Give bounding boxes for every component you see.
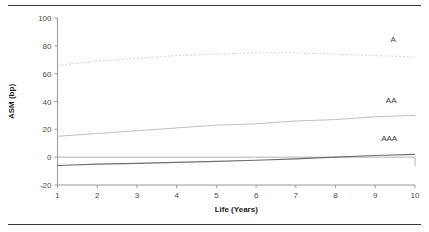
line-chart: -2002040608010012345678910ASM (bp)Life (… (0, 0, 429, 232)
x-tick-label: 3 (135, 191, 140, 200)
y-tick-label: 100 (38, 14, 52, 23)
y-tick-label: 80 (43, 42, 52, 51)
y-axis-title: ASM (bp) (7, 84, 16, 119)
series-label-a: A (390, 35, 396, 44)
series-line-aa (58, 115, 416, 136)
x-tick-label: 5 (214, 191, 219, 200)
x-tick-label: 4 (174, 191, 179, 200)
chart-plot-area: -2002040608010012345678910ASM (bp)Life (… (0, 0, 429, 232)
series-label-aa: AA (386, 96, 397, 105)
x-tick-label: 6 (254, 191, 259, 200)
series-line-a (58, 53, 416, 66)
y-tick-label: -20 (40, 181, 52, 190)
y-tick-label: 60 (43, 70, 52, 79)
x-tick-label: 1 (55, 191, 60, 200)
x-tick-label: 10 (411, 191, 420, 200)
y-tick-label: 0 (47, 153, 52, 162)
x-tick-label: 2 (95, 191, 100, 200)
y-tick-label: 40 (43, 98, 52, 107)
y-tick-label: 20 (43, 125, 52, 134)
x-axis-title: Life (Years) (215, 205, 258, 214)
x-tick-label: 8 (333, 191, 338, 200)
x-tick-label: 9 (373, 191, 378, 200)
x-tick-label: 7 (294, 191, 299, 200)
figure-container: -2002040608010012345678910ASM (bp)Life (… (0, 0, 429, 232)
series-line-aaa (58, 154, 416, 165)
series-label-aaa: AAA (381, 134, 398, 143)
